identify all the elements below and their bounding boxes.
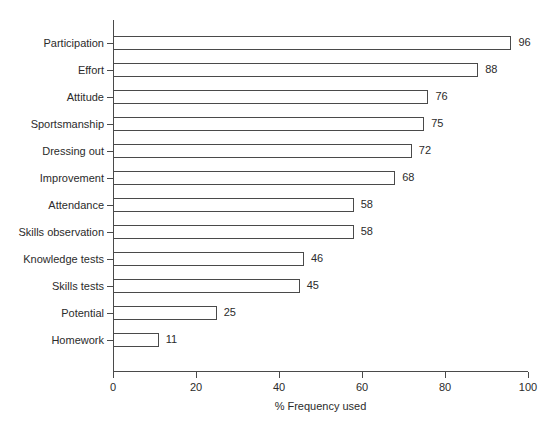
y-axis-tick [107,340,113,341]
x-axis-tick [445,372,446,378]
bar-value-label: 25 [224,305,236,320]
bar-value-label: 58 [361,197,373,212]
y-axis-tick [107,259,113,260]
x-axis-tick [279,372,280,378]
bar-value-label: 72 [419,143,431,158]
bar [113,90,428,104]
category-label: Skills tests [4,280,104,292]
bar [113,198,354,212]
bar-value-label: 11 [166,332,177,347]
bar [113,144,412,158]
category-label: Homework [4,334,104,346]
category-label: Participation [4,37,104,49]
category-label: Sportsmanship [4,118,104,130]
bar-value-label: 96 [518,35,530,50]
bar [113,63,478,77]
bar-chart: 968876757268585846452511 ParticipationEf… [0,0,558,430]
category-label: Attitude [4,91,104,103]
bar [113,333,159,347]
bar-value-label: 88 [485,62,497,77]
y-axis-tick [107,97,113,98]
category-label: Attendance [4,199,104,211]
bar [113,306,217,320]
category-label: Potential [4,307,104,319]
bar-value-label: 46 [311,251,323,266]
x-axis-tick [196,372,197,378]
x-axis-tick-label: 60 [342,381,382,394]
y-axis-tick [107,43,113,44]
x-axis-tick-label: 40 [259,381,299,394]
category-label: Skills observation [4,226,104,238]
x-axis-tick-label: 100 [508,381,548,394]
y-axis-tick [107,70,113,71]
y-axis-tick [107,178,113,179]
x-axis-tick [528,372,529,378]
y-axis-tick [107,313,113,314]
bar [113,36,511,50]
bar-value-label: 58 [361,224,373,239]
x-axis-tick [362,372,363,378]
x-axis-tick-label: 0 [93,381,133,394]
y-axis-tick [107,151,113,152]
bar [113,279,300,293]
x-axis-tick [113,372,114,378]
bar-value-label: 68 [402,170,414,185]
x-axis-tick-label: 80 [425,381,465,394]
y-axis-tick [107,205,113,206]
bar [113,117,424,131]
category-label: Effort [4,64,104,76]
category-label: Improvement [4,172,104,184]
y-axis-tick [107,232,113,233]
bar-value-label: 45 [307,278,319,293]
bar [113,252,304,266]
x-axis-title: % Frequency used [113,400,528,413]
category-label: Knowledge tests [4,253,104,265]
category-label: Dressing out [4,145,104,157]
bar-value-label: 76 [435,89,447,104]
bar [113,171,395,185]
x-axis-line [113,371,528,372]
bar-value-label: 75 [431,116,443,131]
y-axis-tick [107,124,113,125]
y-axis-tick [107,286,113,287]
x-axis-tick-label: 20 [176,381,216,394]
bar [113,225,354,239]
